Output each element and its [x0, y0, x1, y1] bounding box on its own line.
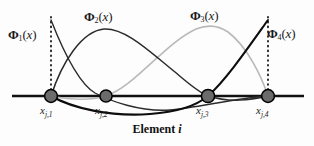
node-marker-1: [45, 90, 58, 103]
phi4-argument: (x): [281, 26, 295, 41]
node-label-xj3: xj,3: [196, 104, 209, 116]
phi1-symbol: Φ: [8, 27, 19, 42]
xj2-subscript: j,2: [100, 110, 108, 119]
element-caption: Element i: [0, 122, 314, 137]
phi4-symbol: Φ: [267, 26, 278, 41]
node-marker-4: [262, 90, 275, 103]
xj3-subscript: j,3: [201, 110, 209, 119]
phi2-symbol: Φ: [84, 9, 95, 24]
curve-phi3: [51, 26, 268, 99]
phi2-argument: (x): [98, 9, 112, 24]
node-label-xj1: xj,1: [40, 104, 53, 116]
function-label-phi4: Φ4(x): [267, 26, 295, 42]
phi4-subscript: 4: [278, 33, 282, 42]
node-label-xj2: xj,2: [95, 104, 108, 116]
phi1-argument: (x): [22, 27, 36, 42]
xj4-subscript: j,4: [261, 110, 269, 119]
phi3-argument: (x): [204, 8, 218, 23]
xj1-subscript: j,1: [45, 110, 53, 119]
function-label-phi1: Φ1(x): [8, 27, 36, 43]
phi3-symbol: Φ: [190, 8, 201, 23]
caption-index: i: [178, 122, 181, 136]
phi3-subscript: 3: [201, 15, 205, 24]
phi1-subscript: 1: [19, 34, 23, 43]
caption-prefix: Element: [133, 122, 176, 136]
function-label-phi2: Φ2(x): [84, 9, 112, 25]
node-marker-2: [100, 90, 112, 102]
figure-cubic-basis-functions: Φ1(x) Φ2(x) Φ3(x) Φ4(x) xj,1 xj,2 xj,3 x…: [0, 0, 314, 146]
node-label-xj4: xj,4: [256, 104, 269, 116]
phi2-subscript: 2: [95, 16, 99, 25]
function-label-phi3: Φ3(x): [190, 8, 218, 24]
node-marker-3: [201, 89, 214, 102]
